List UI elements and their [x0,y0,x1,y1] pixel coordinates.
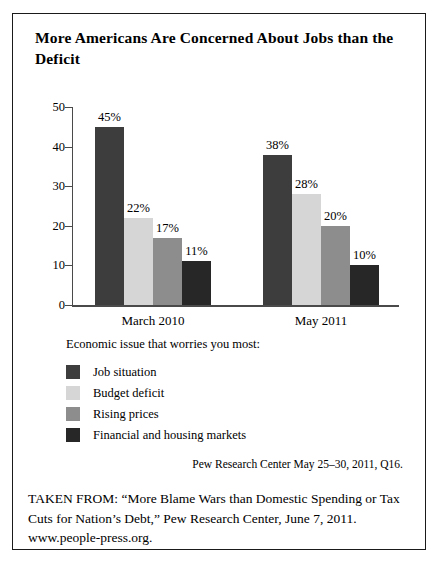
legend-item-label: Budget deficit [93,386,164,400]
bar-value-label: 28% [286,178,327,191]
y-tick-label: 20 [19,220,65,233]
source-note: Pew Research Center May 25–30, 2011, Q16… [192,457,403,471]
y-tick-label: 0 [19,299,65,312]
y-tick-label: 50 [19,101,65,114]
legend-item-label: Financial and housing markets [93,428,246,442]
y-tick-mark [65,147,72,148]
bar-value-label: 22% [118,202,159,215]
legend-color-swatch [66,407,80,421]
y-tick-mark [65,107,72,108]
bar-value-label: 10% [344,249,385,262]
bar [95,127,124,305]
y-axis-line [72,107,73,306]
legend-item: Financial and housing markets [66,424,396,445]
x-axis-group-label: May 2011 [261,314,381,328]
chart-title: More Americans Are Concerned About Jobs … [35,27,395,69]
bar-value-label: 17% [147,222,188,235]
y-tick-label: 30 [19,180,65,193]
chart-plot-area: 01020304050 45%22%17%11%38%28%20%10% Mar… [13,84,427,334]
y-tick-label: 40 [19,141,65,154]
legend-item: Rising prices [66,403,396,424]
x-axis-line [72,305,399,307]
legend-color-swatch [66,428,80,442]
bar-value-label: 38% [257,139,298,152]
legend-item: Job situation [66,361,396,382]
legend-item-label: Job situation [93,365,157,379]
y-tick-mark [65,186,72,187]
bar-value-label: 45% [89,111,130,124]
figure-frame: More Americans Are Concerned About Jobs … [12,13,426,550]
bar [321,226,350,305]
legend-color-swatch [66,365,80,379]
legend-item-label: Rising prices [93,407,159,421]
bar-value-label: 20% [315,210,356,223]
y-tick-mark [65,265,72,266]
bar [182,261,211,305]
legend-title: Economic issue that worries you most: [66,337,396,352]
y-tick-mark [65,226,72,227]
chart-legend: Economic issue that worries you most: Jo… [66,337,396,445]
figure-caption: TAKEN FROM: “More Blame Wars than Domest… [28,489,413,548]
y-tick-label: 10 [19,259,65,272]
legend-items: Job situationBudget deficitRising prices… [66,361,396,445]
bar-value-label: 11% [176,245,217,258]
bar [350,265,379,305]
bar [263,155,292,305]
legend-item: Budget deficit [66,382,396,403]
y-tick-mark [65,305,72,306]
legend-color-swatch [66,386,80,400]
x-axis-group-label: March 2010 [93,314,213,328]
